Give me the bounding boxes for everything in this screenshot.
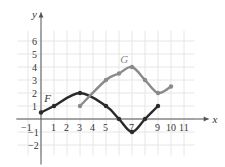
svg-text:3: 3 [32,75,37,86]
svg-text:2: 2 [64,122,69,133]
svg-text:x: x [212,113,218,125]
label-g: G [120,53,128,65]
svg-text:5: 5 [32,49,37,60]
svg-text:1: 1 [32,101,37,112]
label-f: F [43,92,51,104]
svg-text:−2: −2 [28,140,39,151]
svg-text:5: 5 [103,122,108,133]
svg-text:4: 4 [32,62,37,73]
axes: xy [16,8,217,165]
svg-text:6: 6 [32,36,37,47]
curve-f [41,93,158,132]
svg-text:−1: −1 [28,127,39,138]
function-graph: xy −112345791011654321−1−2 FG [0,0,225,167]
svg-text:10: 10 [166,122,176,133]
svg-text:3: 3 [77,122,82,133]
svg-text:11: 11 [179,122,189,133]
svg-text:4: 4 [90,122,95,133]
svg-text:y: y [31,8,37,20]
svg-text:9: 9 [155,122,160,133]
svg-text:2: 2 [32,88,37,99]
curve-g [80,67,171,106]
svg-text:1: 1 [51,122,56,133]
